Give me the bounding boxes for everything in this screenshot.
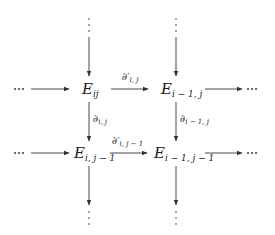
label-v-left: ∂i, j	[93, 113, 108, 126]
commutative-diagram: ⋯ Eij ∂′i, j Ei − 1, j ⋯ ∂i, j ∂i − 1, j…	[0, 0, 275, 235]
node-e-ij: Eij	[81, 80, 99, 99]
node-e-im1-jm1: Ei − 1, j − 1	[153, 144, 214, 163]
node-e-im1-j: Ei − 1, j	[160, 80, 203, 99]
row1-left-ellipsis: ⋯	[13, 82, 25, 96]
label-v-right: ∂i − 1, j	[180, 113, 210, 126]
label-h-bottom: ∂′i, j − 1	[112, 135, 143, 148]
label-h-top: ∂′i, j	[122, 71, 139, 84]
row1-right-ellipsis: ⋯	[246, 82, 258, 96]
bottom-left-vdots	[88, 211, 90, 225]
bottom-right-vdots	[175, 211, 177, 225]
row2-right-ellipsis: ⋯	[246, 146, 258, 160]
top-right-vdots	[175, 18, 177, 32]
top-left-vdots	[88, 18, 90, 32]
node-e-i-jm1: Ei, j − 1	[73, 144, 115, 163]
row2-left-ellipsis: ⋯	[13, 146, 25, 160]
